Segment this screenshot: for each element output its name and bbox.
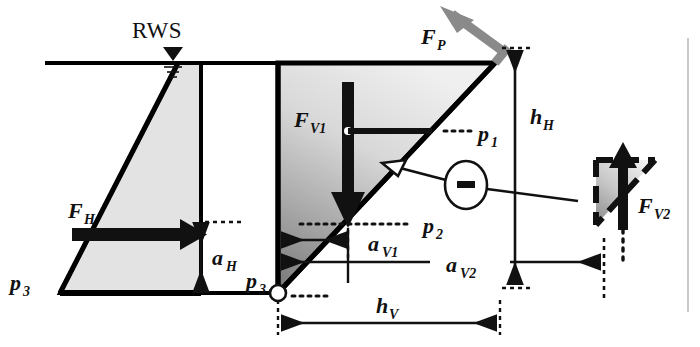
svg-text:h: h [530,104,542,129]
svg-text:H: H [83,212,96,227]
water-table-triangle-icon [163,47,183,61]
svg-text:1: 1 [491,135,498,150]
callout-leader-left [400,168,446,180]
label-p1: p 1 [476,121,498,150]
svg-text:a: a [446,252,457,277]
svg-text:p: p [244,268,257,293]
force-diagram: RWS F H F V1 F V2 F P a H a V1 a V2 [0,0,700,347]
svg-text:P: P [437,38,446,53]
svg-text:3: 3 [22,284,30,299]
label-av1: a V1 [368,231,398,260]
force-fp-arrow [440,6,508,63]
minus-sign-icon [457,181,475,188]
svg-text:F: F [293,107,309,132]
svg-text:V1: V1 [310,121,326,136]
svg-text:V2: V2 [654,207,670,222]
svg-text:h: h [376,293,388,318]
svg-text:a: a [368,231,379,256]
left-pressure-diagram [60,63,201,293]
svg-text:F: F [420,24,436,49]
svg-text:2: 2 [435,227,443,242]
svg-text:H: H [225,259,238,274]
svg-text:p: p [476,121,489,146]
label-fv2: F V2 [637,193,670,222]
svg-text:F: F [67,198,83,223]
label-p3-left: p 3 [8,270,30,299]
label-hh: h H [530,104,555,133]
svg-text:3: 3 [258,282,266,297]
label-p3-right: p 3 [244,268,266,297]
svg-text:F: F [637,193,653,218]
callout-leader-right [487,189,578,201]
label-rws: RWS [132,18,182,43]
figure-canvas: RWS F H F V1 F V2 F P a H a V1 a V2 [0,0,700,347]
svg-text:V1: V1 [382,245,398,260]
label-p2: p 2 [421,213,443,242]
svg-text:p: p [8,270,21,295]
label-hv: h V [376,293,400,322]
label-ah: a H [212,245,238,274]
label-av2: a V2 [446,252,476,281]
svg-text:V2: V2 [460,266,476,281]
label-fp: F P [420,24,446,53]
svg-text:H: H [542,118,555,133]
svg-text:a: a [212,245,223,270]
svg-text:p: p [421,213,434,238]
label-fh: F H [67,198,96,227]
svg-text:V: V [389,307,400,322]
wedge-toe-node [270,285,286,301]
